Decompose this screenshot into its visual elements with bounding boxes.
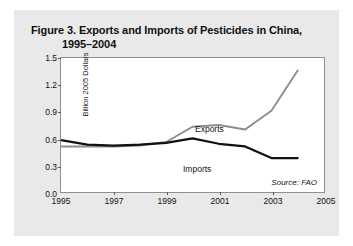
figure-title: Figure 3. Exports and Imports of Pestici… [31,24,321,51]
y-tick-label: 0.6 [45,135,57,145]
y-tick-label: 1.5 [45,53,57,63]
x-tick-label: 1995 [52,196,71,206]
series-label-exports: Exports [195,124,224,134]
y-tick-label: 0.3 [45,162,57,172]
source-note: Source: FAO [271,178,317,187]
series-label-imports: Imports [183,164,211,174]
y-tick-label: 0.9 [45,107,57,117]
y-tick-label: 1.2 [45,80,57,90]
series-line-imports [61,138,298,158]
plot-area: Billion 2005 Dollars 0.00.30.60.91.21.5 … [60,57,325,193]
figure-title-line-2: 1995–2004 [31,38,321,52]
x-tick-mark [167,192,168,195]
figure-title-line-1: Figure 3. Exports and Imports of Pestici… [31,24,302,36]
x-tick-label: 2005 [317,196,336,206]
x-tick-mark [220,192,221,195]
series-line-exports [61,71,298,147]
x-tick-label: 1997 [105,196,124,206]
x-tick-label: 2003 [264,196,283,206]
x-tick-label: 1999 [158,196,177,206]
x-tick-label: 2001 [211,196,230,206]
x-tick-mark [273,192,274,195]
x-tick-mark [114,192,115,195]
figure-container: Figure 3. Exports and Imports of Pestici… [14,10,339,236]
